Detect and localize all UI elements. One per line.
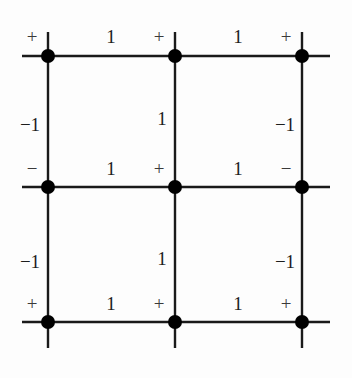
lattice-node	[295, 49, 309, 63]
lattice-node	[295, 315, 309, 329]
lattice-node	[168, 49, 182, 63]
lattice-node	[168, 180, 182, 194]
lattice-node	[168, 315, 182, 329]
lattice-node	[41, 315, 55, 329]
lattice-node	[295, 180, 309, 194]
lattice-node	[41, 49, 55, 63]
lattice-node	[41, 180, 55, 194]
lattice-figure: 111111−11−1−11−1+++−+−+++	[0, 0, 352, 378]
lattice-diagram	[0, 0, 352, 378]
